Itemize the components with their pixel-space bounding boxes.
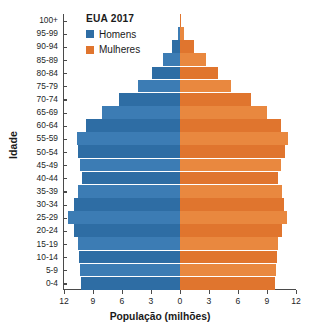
bar-homens [80, 264, 180, 277]
y-axis-tick-label: 60-64 [37, 119, 58, 132]
x-axis-tick [64, 290, 65, 294]
y-axis-title-text: Idade [7, 131, 19, 159]
x-axis-tick-label: 9 [257, 296, 277, 306]
y-axis-tick [63, 152, 67, 153]
y-axis-tick-label: 40-44 [37, 172, 58, 185]
x-axis-tick [267, 290, 268, 294]
legend-swatch-mulheres [86, 46, 94, 54]
bar-mulheres [180, 132, 288, 145]
bar-homens [163, 53, 180, 66]
y-axis-tick [63, 126, 67, 127]
bar-homens [80, 159, 180, 172]
legend-item-homens: Homens [86, 29, 140, 40]
y-axis-tick-label: 95-99 [37, 27, 58, 40]
y-axis-tick-labels: 0-45-910-1415-1920-2425-2930-3435-3940-4… [24, 14, 60, 290]
y-axis-tick-label: 20-24 [37, 224, 58, 237]
bar-homens [78, 237, 180, 250]
y-axis-tick-label: 70-74 [37, 93, 58, 106]
chart-title-and-legend: EUA 2017 Homens Mulheres [86, 13, 140, 55]
bar-homens [82, 172, 180, 185]
bar-mulheres [180, 159, 281, 172]
y-axis-tick-label: 45-49 [37, 159, 58, 172]
y-axis-tick [63, 34, 67, 35]
bar-mulheres [180, 67, 218, 80]
bar-mulheres [180, 211, 287, 224]
bar-mulheres [180, 53, 206, 66]
y-axis-tick [63, 244, 67, 245]
bar-homens [79, 251, 180, 264]
bar-mulheres [180, 119, 281, 132]
bar-mulheres [180, 277, 275, 290]
x-axis-tick-label: 9 [83, 296, 103, 306]
bar-mulheres [180, 93, 251, 106]
bar-homens [74, 198, 180, 211]
y-axis-tick-label: 25-29 [37, 211, 58, 224]
x-axis-tick [122, 290, 123, 294]
bar-homens [77, 132, 180, 145]
x-axis-tick-label: 12 [286, 296, 306, 306]
bar-homens [68, 211, 180, 224]
y-axis-tick-label: 0-4 [46, 277, 58, 290]
y-axis-tick-label: 15-19 [37, 238, 58, 251]
bar-mulheres [180, 264, 276, 277]
bar-homens [86, 119, 180, 132]
x-axis-tick-label: 6 [228, 296, 248, 306]
y-axis-tick-label: 90-94 [37, 40, 58, 53]
x-axis-tick [180, 290, 181, 294]
legend-item-mulheres: Mulheres [86, 44, 140, 55]
x-axis-title: População (milhões) [0, 311, 320, 322]
bar-mulheres [180, 145, 285, 158]
y-axis-tick [63, 218, 67, 219]
x-axis-tick [238, 290, 239, 294]
x-axis-tick-label: 3 [141, 296, 161, 306]
bar-homens [102, 106, 180, 119]
plot-area [64, 14, 296, 290]
bar-homens [78, 145, 180, 158]
y-axis-tick-label: 80-84 [37, 67, 58, 80]
y-axis-tick [63, 270, 67, 271]
bar-homens [172, 40, 180, 53]
x-axis-tick [151, 290, 152, 294]
y-axis-tick [63, 99, 67, 100]
bar-mulheres [180, 198, 284, 211]
y-axis-tick-label: 50-54 [37, 146, 58, 159]
bar-homens [152, 67, 180, 80]
bar-mulheres [180, 251, 277, 264]
y-axis-tick [63, 113, 67, 114]
bar-mulheres [180, 224, 282, 237]
y-axis-tick [63, 60, 67, 61]
y-axis-tick [63, 139, 67, 140]
chart-title: EUA 2017 [86, 13, 140, 24]
x-axis-tick [93, 290, 94, 294]
y-axis-tick [63, 283, 67, 284]
bar-mulheres [180, 237, 278, 250]
y-axis-tick-label: 55-59 [37, 132, 58, 145]
y-axis-tick [63, 191, 67, 192]
bar-mulheres [180, 40, 194, 53]
x-axis-tick-label: 0 [170, 296, 190, 306]
y-axis-tick [63, 21, 67, 22]
legend-label-mulheres: Mulheres [99, 44, 140, 55]
bar-mulheres [180, 172, 278, 185]
bar-homens [78, 185, 180, 198]
x-axis-tick-label: 3 [199, 296, 219, 306]
y-axis-tick [63, 73, 67, 74]
y-axis-tick-label: 85-89 [37, 54, 58, 67]
bar-homens [138, 80, 180, 93]
x-axis-tick-label: 6 [112, 296, 132, 306]
y-axis-tick-label: 65-69 [37, 106, 58, 119]
y-axis-tick-label: 5-9 [46, 264, 58, 277]
bar-homens [74, 224, 180, 237]
x-axis-tick [209, 290, 210, 294]
y-axis-tick [63, 47, 67, 48]
bar-homens [81, 277, 180, 290]
y-axis-tick-label: 100+ [39, 14, 58, 27]
y-axis-tick-label: 10-14 [37, 251, 58, 264]
y-axis-tick [63, 257, 67, 258]
y-axis-tick [63, 178, 67, 179]
bar-mulheres [180, 27, 184, 40]
y-axis-tick [63, 165, 67, 166]
y-axis-tick [63, 205, 67, 206]
y-axis-title: Idade [2, 0, 24, 290]
bar-mulheres [180, 106, 267, 119]
